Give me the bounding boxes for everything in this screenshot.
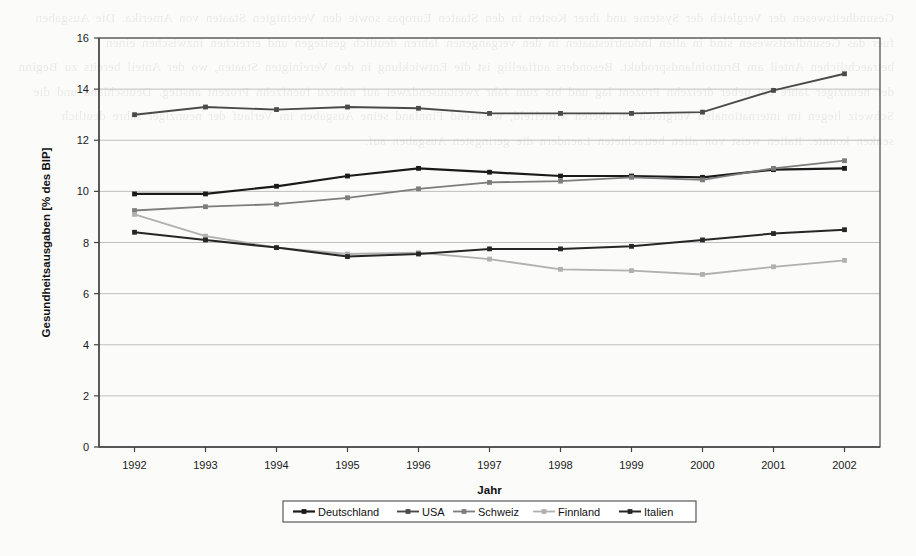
legend-marker <box>462 509 467 514</box>
chart-canvas: 0246810121416199219931994199519961997199… <box>0 0 916 556</box>
x-tick-label: 2000 <box>690 459 714 471</box>
data-point <box>203 192 208 197</box>
y-tick-label: 10 <box>77 185 89 197</box>
data-point <box>487 111 492 116</box>
data-point <box>629 111 634 116</box>
data-point <box>842 227 847 232</box>
y-tick-label: 14 <box>77 83 89 95</box>
data-point <box>132 212 137 217</box>
data-point <box>203 204 208 209</box>
x-tick-label: 1995 <box>335 459 359 471</box>
line-chart-figure: 0246810121416199219931994199519961997199… <box>0 0 916 556</box>
data-point <box>771 264 776 269</box>
data-point <box>274 245 279 250</box>
legend-marker <box>302 509 307 514</box>
data-point <box>416 166 421 171</box>
data-point <box>487 246 492 251</box>
series-italien <box>132 227 847 259</box>
x-tick-label: 1994 <box>264 459 288 471</box>
x-tick-label: 1992 <box>122 459 146 471</box>
series-schweiz <box>132 158 847 213</box>
y-tick-label: 16 <box>77 32 89 44</box>
x-axis-title: Jahr <box>477 484 502 496</box>
legend-marker <box>628 509 633 514</box>
data-point <box>274 202 279 207</box>
data-point <box>842 258 847 263</box>
series-line-1 <box>135 74 845 115</box>
data-point <box>203 105 208 110</box>
y-tick-label: 4 <box>83 339 89 351</box>
data-point <box>487 170 492 175</box>
data-point <box>345 174 350 179</box>
data-point <box>771 166 776 171</box>
legend-marker <box>542 509 547 514</box>
data-point <box>416 106 421 111</box>
series-usa <box>132 71 847 117</box>
data-point <box>558 174 563 179</box>
x-tick-label: 2001 <box>761 459 785 471</box>
legend-label: USA <box>422 506 445 518</box>
series-line-2 <box>135 161 845 211</box>
data-point <box>771 88 776 93</box>
data-point <box>416 186 421 191</box>
data-point <box>700 238 705 243</box>
data-point <box>345 105 350 110</box>
y-axis-title: Gesundheitsausgaben [% des BIP] <box>40 147 52 337</box>
y-tick-label: 0 <box>83 441 89 453</box>
data-point <box>842 158 847 163</box>
x-tick-label: 1993 <box>193 459 217 471</box>
x-tick-label: 1996 <box>406 459 430 471</box>
legend-label: Deutschland <box>318 506 379 518</box>
data-point <box>203 238 208 243</box>
data-point <box>629 244 634 249</box>
data-point <box>842 166 847 171</box>
y-tick-label: 8 <box>83 237 89 249</box>
data-point <box>558 267 563 272</box>
data-point <box>345 254 350 259</box>
legend-label: Italien <box>644 506 673 518</box>
x-tick-label: 1997 <box>477 459 501 471</box>
data-point <box>700 110 705 115</box>
data-point <box>132 112 137 117</box>
data-point <box>700 272 705 277</box>
data-point <box>345 195 350 200</box>
data-point <box>558 179 563 184</box>
x-tick-label: 1999 <box>619 459 643 471</box>
data-point <box>274 107 279 112</box>
y-tick-label: 2 <box>83 390 89 402</box>
data-point <box>558 246 563 251</box>
data-point <box>487 180 492 185</box>
data-point <box>274 184 279 189</box>
data-point <box>629 268 634 273</box>
x-tick-label: 1998 <box>548 459 572 471</box>
legend-label: Schweiz <box>478 506 519 518</box>
data-point <box>842 71 847 76</box>
data-point <box>771 231 776 236</box>
data-point <box>132 192 137 197</box>
series-line-4 <box>135 230 845 257</box>
data-point <box>416 252 421 257</box>
data-point <box>487 257 492 262</box>
legend-label: Finnland <box>558 506 600 518</box>
data-point <box>700 177 705 182</box>
y-tick-label: 6 <box>83 288 89 300</box>
legend-marker <box>406 509 411 514</box>
y-tick-label: 12 <box>77 134 89 146</box>
data-point <box>558 111 563 116</box>
data-point <box>629 175 634 180</box>
data-point <box>132 230 137 235</box>
x-tick-label: 2002 <box>832 459 856 471</box>
